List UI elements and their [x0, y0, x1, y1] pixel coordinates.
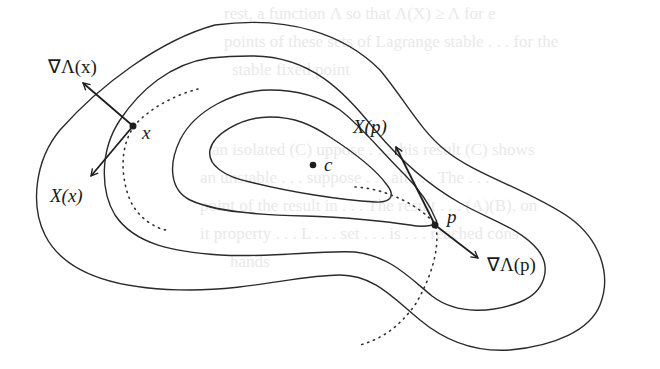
dotted-curve-x: [123, 89, 198, 230]
label-gradient-p: ∇Λ(p): [486, 254, 536, 276]
label-field-x: X(x): [49, 185, 83, 207]
point-c-dot: [310, 162, 317, 169]
contour-third: [173, 90, 437, 226]
field-vector-p: [396, 147, 435, 225]
label-field-p: X(p): [352, 116, 387, 138]
dotted-curve-p: [355, 187, 437, 345]
gradient-vector-p: [435, 225, 478, 258]
contour-outer: [37, 22, 605, 350]
point-x-dot: [130, 123, 137, 130]
label-point-p: p: [445, 206, 457, 227]
label-gradient-x: ∇Λ(x): [47, 56, 97, 78]
label-point-x: x: [141, 122, 151, 143]
contour-second: [104, 56, 545, 310]
point-p-dot: [432, 222, 439, 229]
label-point-c: c: [324, 154, 333, 175]
level-set-diagram: ∇Λ(x) X(x) x c X(p) p ∇Λ(p): [0, 0, 660, 369]
gradient-vector-x: [83, 83, 133, 126]
